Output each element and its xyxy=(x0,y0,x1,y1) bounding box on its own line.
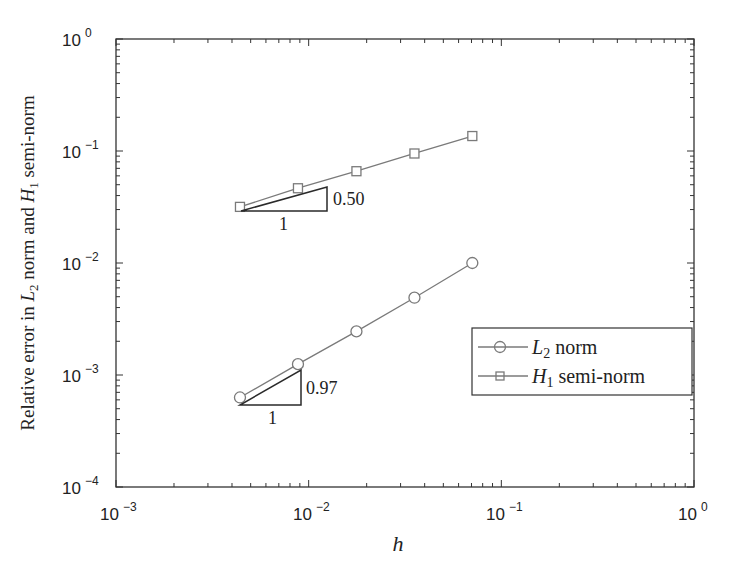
square-marker-icon xyxy=(410,149,419,158)
x-tick-label: 100 xyxy=(678,500,708,524)
circle-marker-icon xyxy=(234,392,245,403)
circle-marker-icon xyxy=(351,326,362,337)
x-axis-label: h xyxy=(393,531,404,556)
slope-rise-label: 0.50 xyxy=(333,189,365,209)
y-tick-label: 100 xyxy=(62,26,92,50)
circle-marker-icon xyxy=(409,292,420,303)
data-series xyxy=(234,132,477,403)
x-tick-labels: 10−3 10−2 10−1 100 xyxy=(100,500,708,524)
y-axis-label: Relative error in L2 norm and H1 semi-no… xyxy=(17,95,41,431)
slope-run-label: 1 xyxy=(268,408,277,428)
slope-triangle-h1: 0.50 1 xyxy=(241,187,365,234)
square-marker-icon xyxy=(352,167,361,176)
slope-rise-label: 0.97 xyxy=(306,378,338,398)
y-tick-label: 10−1 xyxy=(62,138,99,162)
x-tick-label: 10−1 xyxy=(486,500,523,524)
svg-text:L2 norm: L2 norm xyxy=(531,336,598,361)
plot-area xyxy=(116,39,694,487)
y-tick-labels: 100 10−1 10−2 10−3 10−4 xyxy=(62,26,99,498)
y-tick-label: 10−2 xyxy=(62,250,99,274)
y-tick-label: 10−4 xyxy=(62,474,99,498)
x-tick-label: 10−2 xyxy=(293,500,330,524)
x-tick-label: 10−3 xyxy=(100,500,137,524)
circle-marker-icon xyxy=(467,258,478,269)
axis-ticks xyxy=(116,39,694,487)
y-tick-label: 10−3 xyxy=(62,362,99,386)
slope-run-label: 1 xyxy=(279,214,288,234)
slope-triangle-l2: 0.97 1 xyxy=(240,370,338,428)
legend: L2 norm H1 semi-norm xyxy=(472,328,692,395)
square-marker-icon xyxy=(293,184,302,193)
square-marker-icon xyxy=(468,132,477,141)
circle-marker-icon xyxy=(292,359,303,370)
convergence-chart: 100 10−1 10−2 10−3 10−4 10−3 10−2 10−1 1… xyxy=(0,0,742,577)
